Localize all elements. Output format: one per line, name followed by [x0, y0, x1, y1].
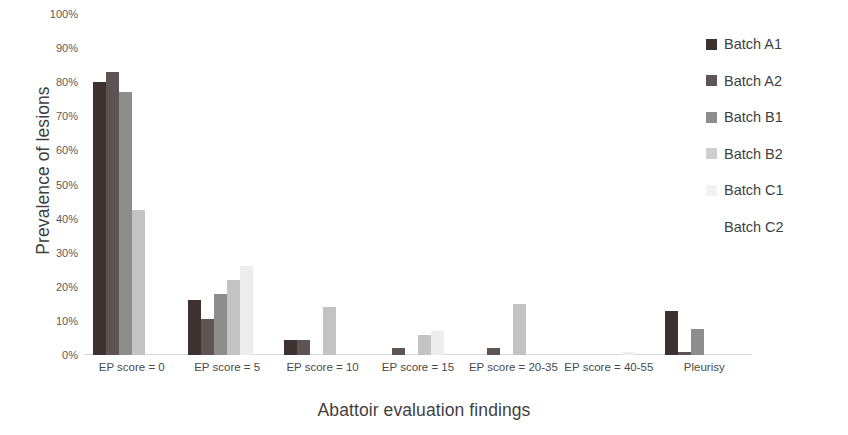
legend-label: Batch B2 — [724, 146, 783, 162]
legend-item: Batch C2 — [706, 209, 846, 246]
legend-item: Batch B2 — [706, 136, 846, 173]
bar-group — [284, 14, 362, 355]
y-axis-tick-label: 0% — [32, 350, 78, 361]
y-axis-tick-label: 60% — [32, 145, 78, 156]
bar — [240, 266, 253, 355]
bar — [188, 300, 201, 355]
y-axis-tick-label: 10% — [32, 316, 78, 327]
bar — [431, 331, 444, 355]
legend-swatch-icon — [706, 39, 717, 50]
legend-item: Batch C1 — [706, 172, 846, 209]
x-axis-tick-label: EP score = 40-55 — [561, 362, 656, 374]
legend-label: Batch A2 — [724, 73, 782, 89]
x-axis-tick-label: Pleurisy — [657, 362, 752, 374]
y-axis-tick-label: 30% — [32, 248, 78, 259]
x-axis-tick-label: EP score = 20-35 — [466, 362, 561, 374]
legend-swatch-icon — [706, 75, 717, 86]
bar-group — [188, 14, 266, 355]
x-axis-tick-label: EP score = 15 — [370, 362, 465, 374]
bar — [119, 92, 132, 355]
legend-swatch-icon — [706, 112, 717, 123]
bar-group — [570, 14, 648, 355]
y-axis-ticks: 100%90%80%70%60%50%40%30%20%10%0% — [32, 0, 78, 435]
bar — [297, 340, 310, 355]
y-axis-tick-label: 70% — [32, 111, 78, 122]
bar — [678, 352, 691, 355]
legend-label: Batch A1 — [724, 36, 782, 52]
y-axis-tick-label: 90% — [32, 43, 78, 54]
legend-swatch-icon — [706, 185, 717, 196]
bar-group — [93, 14, 171, 355]
bar — [392, 348, 405, 355]
legend-label: Batch C2 — [724, 219, 784, 235]
x-axis-tick-label: EP score = 10 — [275, 362, 370, 374]
bar — [201, 319, 214, 355]
bar — [418, 335, 431, 355]
legend-item: Batch B1 — [706, 99, 846, 136]
legend-item: Batch A1 — [706, 26, 846, 63]
bar — [323, 307, 336, 355]
bar — [665, 311, 678, 355]
y-axis-tick-label: 100% — [32, 9, 78, 20]
legend-swatch-icon — [706, 148, 717, 159]
y-axis-tick-label: 50% — [32, 180, 78, 191]
bar-group — [379, 14, 457, 355]
bar — [227, 280, 240, 355]
x-axis-tick-label: EP score = 0 — [84, 362, 179, 374]
bar — [691, 329, 704, 355]
legend: Batch A1Batch A2Batch B1Batch B2Batch C1… — [706, 26, 846, 245]
legend-label: Batch C1 — [724, 182, 784, 198]
y-axis-tick-label: 80% — [32, 77, 78, 88]
bar — [132, 210, 145, 355]
bar — [284, 340, 297, 355]
y-axis-tick-label: 40% — [32, 214, 78, 225]
bar — [93, 82, 106, 355]
x-axis-title: Abattoir evaluation findings — [0, 400, 848, 421]
bar-chart: Prevalence of lesions 100%90%80%70%60%50… — [0, 0, 848, 435]
bar — [487, 348, 500, 355]
bar-group — [474, 14, 552, 355]
y-axis-tick-label: 20% — [32, 282, 78, 293]
legend-label: Batch B1 — [724, 109, 783, 125]
legend-swatch-icon — [706, 221, 717, 232]
plot-area — [84, 14, 752, 355]
bar — [513, 304, 526, 355]
legend-item: Batch A2 — [706, 63, 846, 100]
bar — [106, 72, 119, 355]
bar — [214, 294, 227, 355]
bar — [622, 352, 635, 355]
x-axis-tick-label: EP score = 5 — [179, 362, 274, 374]
